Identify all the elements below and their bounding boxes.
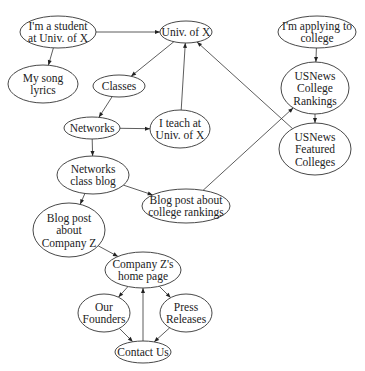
node-label: Blog post about bbox=[150, 194, 224, 207]
node-songs: My songlyrics bbox=[8, 65, 78, 103]
edge-applying-to-rankings bbox=[316, 48, 317, 62]
node-label: Company Z bbox=[42, 237, 97, 250]
node-label: Our bbox=[95, 301, 113, 313]
node-label: Univ. of X bbox=[162, 26, 211, 38]
edge-founders-to-contact bbox=[119, 328, 133, 342]
node-label: Rankings bbox=[293, 95, 337, 108]
node-rankings: USNewsCollegeRankings bbox=[281, 62, 349, 114]
node-label: Colleges bbox=[295, 156, 336, 169]
edge-teach-to-univ bbox=[181, 43, 185, 110]
node-networks: Networks bbox=[64, 117, 120, 139]
edge-homez-to-press bbox=[159, 286, 170, 297]
node-label: Press bbox=[174, 301, 199, 313]
node-label: College bbox=[297, 82, 333, 95]
node-label: class blog bbox=[70, 175, 116, 188]
node-label: Contact Us bbox=[117, 346, 169, 358]
edge-netblog-to-blogrank bbox=[123, 185, 152, 195]
node-label: home page bbox=[118, 270, 168, 283]
node-blogz: Blog postaboutCompany Z bbox=[33, 203, 105, 257]
node-univ: Univ. of X bbox=[160, 21, 212, 43]
node-label: Featured bbox=[295, 143, 335, 155]
node-featured: USNewsFeaturedColleges bbox=[279, 123, 351, 175]
node-label: Classes bbox=[102, 80, 137, 92]
edge-press-to-contact bbox=[154, 328, 170, 342]
node-label: college bbox=[300, 32, 333, 45]
node-label: I'm a student bbox=[29, 20, 89, 32]
node-press: PressReleases bbox=[160, 294, 212, 332]
node-blogrank: Blog post aboutcollege rankings bbox=[142, 189, 230, 223]
node-label: Company Z's bbox=[112, 258, 174, 271]
node-label: lyrics bbox=[30, 84, 56, 97]
node-label: I'm applying to bbox=[282, 20, 352, 33]
node-label: Univ. of X bbox=[156, 129, 205, 141]
node-homez: Company Z'shome page bbox=[105, 252, 181, 288]
node-label: USNews bbox=[295, 70, 336, 82]
node-label: Founders bbox=[83, 313, 126, 325]
edge-classes-to-networks bbox=[99, 97, 112, 118]
node-label: college rankings bbox=[148, 206, 224, 219]
node-netblog: Networksclass blog bbox=[57, 156, 129, 194]
node-label: at Univ. of X bbox=[28, 32, 89, 44]
web-graph-diagram: I'm a studentat Univ. of XUniv. of XI'm … bbox=[0, 0, 365, 371]
node-student: I'm a studentat Univ. of X bbox=[20, 16, 96, 48]
node-label: Networks bbox=[70, 122, 115, 134]
node-label: Releases bbox=[166, 313, 207, 325]
edge-homez-to-founders bbox=[118, 287, 128, 298]
node-label: Networks bbox=[71, 163, 116, 175]
node-teach: I teach atUniv. of X bbox=[150, 110, 210, 148]
nodes-layer: I'm a studentat Univ. of XUniv. of XI'm … bbox=[8, 16, 356, 363]
node-contact: Contact Us bbox=[115, 341, 171, 363]
node-label: I teach at bbox=[159, 117, 202, 129]
node-classes: Classes bbox=[93, 75, 145, 97]
edge-featured-to-univ bbox=[197, 42, 293, 129]
edge-student-to-songs bbox=[48, 48, 53, 65]
edge-blogz-to-homez bbox=[98, 246, 118, 257]
edge-univ-to-classes bbox=[131, 42, 174, 77]
node-label: Blog post bbox=[47, 212, 92, 225]
node-label: about bbox=[56, 224, 82, 236]
node-label: My song bbox=[23, 72, 64, 85]
edge-netblog-to-blogz bbox=[80, 194, 85, 205]
node-applying: I'm applying tocollege bbox=[278, 16, 356, 48]
node-label: USNews bbox=[295, 131, 336, 143]
node-founders: OurFounders bbox=[78, 294, 130, 332]
